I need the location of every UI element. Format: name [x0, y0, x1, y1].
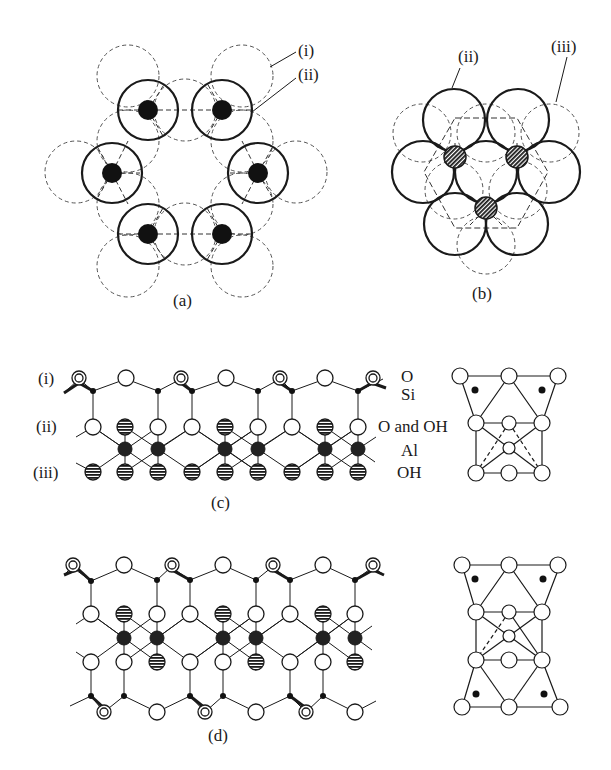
row-label-iii: (iii): [33, 463, 59, 482]
polyhedra-view-c: [452, 368, 566, 481]
panel-c: (i) (ii) (iii) O Si O and OH Al OH (c): [33, 367, 566, 512]
species-label-o: O: [401, 367, 413, 386]
close-packed-solid-circles: [392, 89, 580, 255]
label-a-i: (i): [298, 41, 314, 60]
panel-d: (d): [64, 557, 568, 745]
caption-b: (b): [472, 284, 492, 303]
third-layer-dashed-circles: [393, 104, 579, 274]
oxygen-dashed-circles: [45, 45, 327, 297]
species-label-al: Al: [401, 441, 418, 460]
label-b-iii: (iii): [551, 37, 577, 56]
hydroxyl-bottom-c: [85, 464, 366, 480]
label-b-ii: (ii): [458, 47, 479, 66]
diagram-canvas: (i) (ii) (a): [0, 0, 611, 770]
row-label-ii: (ii): [36, 417, 57, 436]
panel-a: (i) (ii) (a): [45, 41, 327, 310]
species-label-si: Si: [401, 385, 415, 404]
panel-b: (ii) (iii) (b): [392, 37, 580, 303]
polyhedra-view-d: [454, 557, 568, 715]
silicon-dots-c: [90, 388, 361, 394]
oxygen-top-c: [118, 370, 333, 386]
aluminum-d: [117, 631, 362, 645]
row-label-i: (i): [38, 369, 54, 388]
aluminum-c: [118, 442, 365, 456]
caption-a: (a): [173, 291, 192, 310]
caption-c: (c): [211, 493, 230, 512]
leader-lines: [252, 52, 296, 112]
species-label-oh: OH: [397, 463, 422, 482]
label-a-ii: (ii): [298, 65, 319, 84]
species-label-o-and-oh: O and OH: [378, 417, 448, 436]
caption-d: (d): [208, 726, 228, 745]
